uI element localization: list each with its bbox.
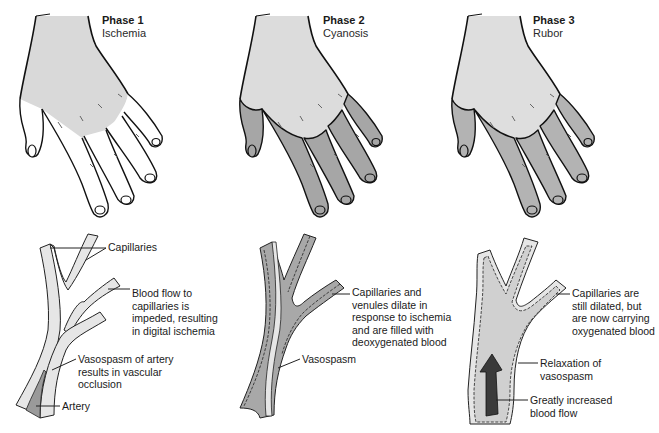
phase-2-hand-panel: Phase 2 Cyanosis [226,4,436,220]
phase-3-title: Phase 3 Rubor [533,14,575,40]
phase-2-heading: Phase 2 [323,14,368,27]
phase-2-subtitle: Cyanosis [323,27,368,40]
label-relaxation-of-vasospasm: Relaxation of vasospasm [540,357,601,382]
phase-3-vessel-panel: Capillaries are still dilated, but are n… [440,220,659,433]
phase-2-vessel-panel: Capillaries and venules dilate in respon… [220,220,440,433]
label-blood-flow-impeded: Blood flow to capillaries is impeded, re… [132,287,218,337]
label-artery: Artery [62,400,90,413]
phase-1-vessel-panel: Capillaries Blood flow to capillaries is… [0,220,220,433]
phase-1-hand-panel: Phase 1 Ischemia [6,4,216,220]
label-capillaries: Capillaries [108,241,157,254]
phase-1-heading: Phase 1 [102,14,146,27]
label-capillaries-still-dilated: Capillaries are still dilated, but are n… [572,287,655,337]
label-vasospasm: Vasospasm [302,353,356,366]
phase-1-subtitle: Ischemia [102,27,146,40]
phase-3-heading: Phase 3 [533,14,575,27]
label-greatly-increased-blood-flow: Greatly increased blood flow [530,394,612,419]
phase-3-hand-panel: Phase 3 Rubor [438,4,648,220]
label-vasospasm-of-artery: Vasospasm of artery results in vascular … [78,353,174,391]
phase-1-title: Phase 1 Ischemia [102,14,146,40]
phase-3-subtitle: Rubor [533,27,575,40]
phase-2-title: Phase 2 Cyanosis [323,14,368,40]
label-capillaries-venules-dilate: Capillaries and venules dilate in respon… [352,286,451,349]
